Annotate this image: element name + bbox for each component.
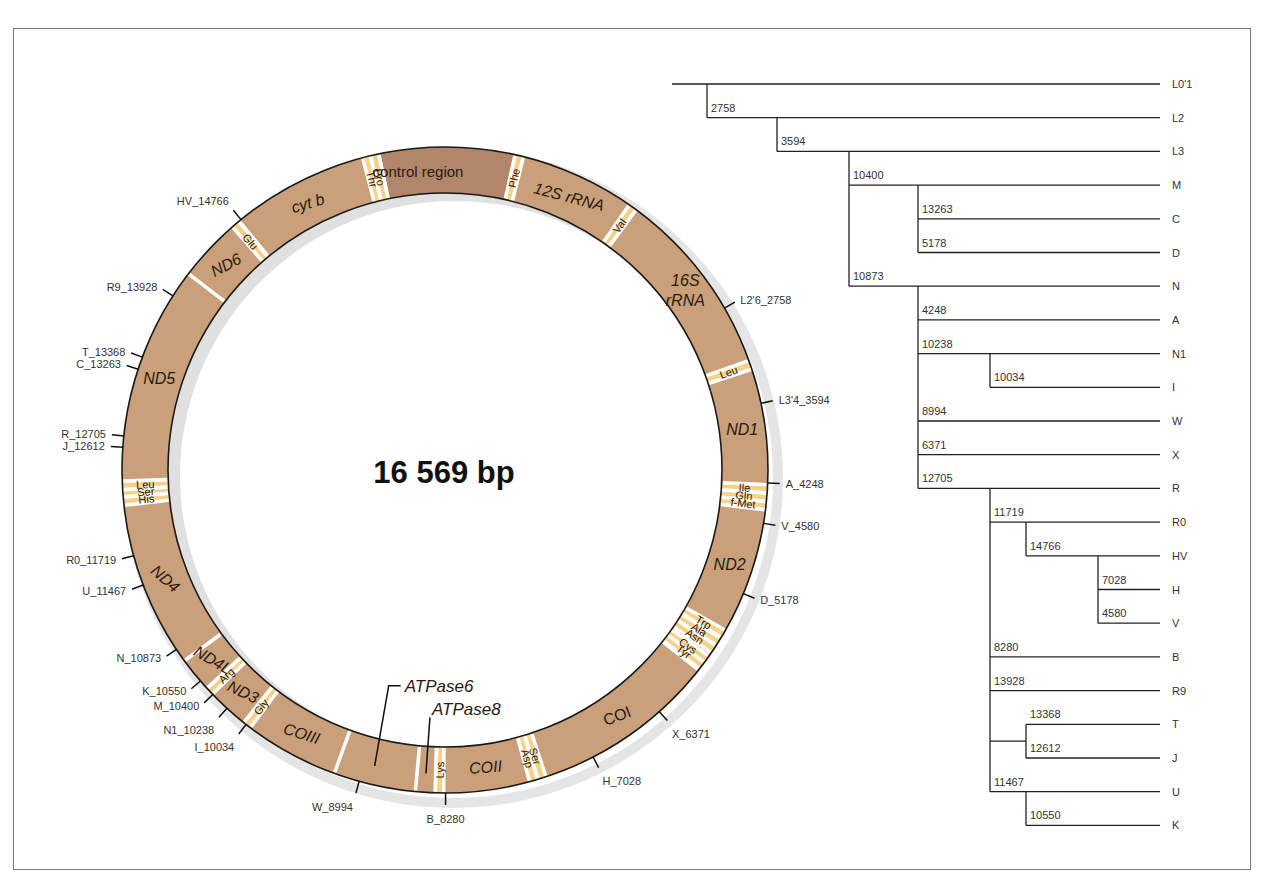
marker-label: N_10873 xyxy=(117,652,162,664)
marker-tick xyxy=(127,366,138,370)
tree-branch-label: 2758 xyxy=(711,102,735,114)
tree-leaf-label: B xyxy=(1172,651,1179,663)
marker-tick xyxy=(131,353,142,357)
marker-label: R9_13928 xyxy=(107,281,158,293)
tree-leaf-label: J xyxy=(1172,752,1178,764)
tree-branch-label: 8280 xyxy=(994,641,1018,653)
marker-label: I_10034 xyxy=(194,741,234,753)
segment-label-group: COII xyxy=(468,757,503,777)
tree-branch-label: 13368 xyxy=(1030,708,1061,720)
gene-label: rRNA xyxy=(666,292,705,309)
segment-label-group: ND1 xyxy=(726,421,758,438)
tree-leaf-label: U xyxy=(1172,786,1180,798)
tree-branch-label: 8994 xyxy=(922,405,946,417)
marker-label: K_10550 xyxy=(142,685,186,697)
marker-label: X_6371 xyxy=(672,728,710,740)
marker-label: V_4580 xyxy=(781,520,819,532)
tree-leaf-label: I xyxy=(1172,381,1175,393)
tree-leaf-label: N1 xyxy=(1172,348,1186,360)
gene-label: ND1 xyxy=(726,421,758,438)
tree-leaf-label: HV xyxy=(1172,550,1188,562)
tree-branch-label: 11467 xyxy=(994,776,1024,788)
tree-branch-label: 3594 xyxy=(781,135,805,147)
tree-branch-label: 13263 xyxy=(922,203,953,215)
tree-leaf-label: H xyxy=(1172,584,1180,596)
genome-size-label: 16 569 bp xyxy=(373,455,514,490)
marker-label: R0_11719 xyxy=(66,554,116,566)
tree-branch-label: 10400 xyxy=(853,169,884,181)
tree-branch-label: 6371 xyxy=(922,439,946,451)
tree-branch-label: 13928 xyxy=(994,675,1025,687)
tree-leaf-label: L3 xyxy=(1172,145,1184,157)
tree-branch-label: 4580 xyxy=(1102,607,1126,619)
figure-canvas: control regionPhe12S rRNAVal16SrRNALeuND… xyxy=(0,0,1268,891)
tree-branch-label: 5178 xyxy=(922,237,946,249)
marker-label: T_13368 xyxy=(82,346,125,358)
gene-label: 16S xyxy=(671,272,700,289)
marker-label: A_4248 xyxy=(786,478,824,490)
gene-label: ND2 xyxy=(714,556,746,573)
tree-leaf-label: R xyxy=(1172,482,1180,494)
tree-leaf-label: C xyxy=(1172,213,1180,225)
tree-branch-label: 10034 xyxy=(994,371,1025,383)
tree-leaf-label: X xyxy=(1172,449,1180,461)
tree-leaf-label: M xyxy=(1172,179,1181,191)
marker-label: U_11467 xyxy=(82,585,126,597)
marker-tick xyxy=(122,556,134,559)
gene-label: ND5 xyxy=(143,370,175,387)
mtdna-circular-map: control regionPhe12S rRNAVal16SrRNALeuND… xyxy=(61,147,830,825)
marker-tick xyxy=(163,289,173,295)
tree-leaf-label: R9 xyxy=(1172,685,1186,697)
segment-label-group: Lys xyxy=(434,761,446,778)
tree-branch-label: 12612 xyxy=(1030,742,1061,754)
tree-leaf-label: R0 xyxy=(1172,516,1186,528)
marker-label: L3'4_3594 xyxy=(779,394,830,406)
marker-label: B_8280 xyxy=(427,813,465,825)
marker-label: R_12705 xyxy=(61,428,106,440)
tree-leaf-label: W xyxy=(1172,415,1183,427)
tree-branch-label: 7028 xyxy=(1102,574,1126,586)
tree-leaf-label: D xyxy=(1172,247,1180,259)
tree-leaf-label: N xyxy=(1172,280,1180,292)
atpase6-label: ATPase6 xyxy=(404,677,474,696)
tree-leaf-label: L0'1 xyxy=(1172,78,1192,90)
marker-label: D_5178 xyxy=(760,594,799,606)
tree-leaf-label: K xyxy=(1172,819,1180,831)
tree-branch-label: 11719 xyxy=(994,506,1024,518)
gene-label: COII xyxy=(468,757,503,777)
marker-label: C_13263 xyxy=(76,358,121,370)
tree-branch-label: 10550 xyxy=(1030,809,1061,821)
marker-label: N1_10238 xyxy=(163,724,214,736)
marker-label: J_12612 xyxy=(63,440,105,452)
trna-label: Lys xyxy=(434,761,446,778)
marker-label: L2'6_2758 xyxy=(740,294,791,306)
atpase8-label: ATPase8 xyxy=(431,700,501,719)
marker-tick xyxy=(132,585,143,589)
tree-branch-label: 10873 xyxy=(853,270,884,282)
marker-label: HV_14766 xyxy=(177,195,229,207)
marker-label: M_10400 xyxy=(153,700,199,712)
tree-leaf-label: T xyxy=(1172,718,1179,730)
segment-label-group: Leu xyxy=(136,478,155,491)
segment-label-group: ND2 xyxy=(714,556,746,573)
segment-label-group: ND5 xyxy=(143,370,175,387)
tree-branch-label: 14766 xyxy=(1030,540,1061,552)
tree-leaf-label: A xyxy=(1172,314,1180,326)
tree-leaf-label: V xyxy=(1172,617,1180,629)
marker-tick xyxy=(233,210,241,219)
tree-branch-label: 12705 xyxy=(922,472,953,484)
tree-branch-label: 4248 xyxy=(922,304,946,316)
marker-tick xyxy=(111,446,123,447)
tree-leaf-label: L2 xyxy=(1172,112,1184,124)
trna-label: Leu xyxy=(136,478,155,491)
marker-label: H_7028 xyxy=(602,775,641,787)
marker-tick xyxy=(112,435,124,436)
marker-label: W_8994 xyxy=(312,801,353,813)
tree-branch-label: 10238 xyxy=(922,338,953,350)
